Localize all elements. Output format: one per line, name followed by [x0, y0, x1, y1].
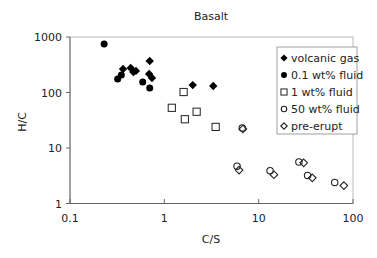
- legend-label: 50 wt% fluid: [291, 103, 360, 116]
- data-point: [340, 182, 348, 190]
- legend-item: 50 wt% fluid: [281, 103, 359, 116]
- y-tick-label: 10: [48, 142, 62, 155]
- legend-marker-icon: [281, 72, 287, 78]
- y-tick-label: 100: [41, 87, 62, 100]
- data-point: [189, 81, 197, 89]
- x-tick-label: 1: [161, 212, 168, 225]
- data-point: [101, 40, 108, 47]
- data-point: [212, 123, 219, 130]
- x-tick-label: 100: [343, 212, 364, 225]
- data-point: [332, 179, 338, 185]
- x-tick-label: 0.1: [61, 212, 79, 225]
- legend-label: 1 wt% fluid: [291, 86, 353, 99]
- data-point: [193, 108, 200, 115]
- data-point: [235, 166, 243, 174]
- legend-label: 0.1 wt% fluid: [291, 69, 363, 82]
- data-point: [180, 88, 187, 95]
- data-point: [114, 76, 121, 83]
- data-point: [270, 171, 278, 179]
- x-axis-label: C/S: [202, 233, 220, 246]
- data-point: [139, 78, 146, 85]
- x-tick-label: 10: [252, 212, 266, 225]
- legend-label: pre-erupt: [291, 120, 343, 133]
- legend-label: volcanic gas: [291, 52, 359, 65]
- legend-item: 1 wt% fluid: [281, 86, 353, 99]
- scatter-chart: Basalt 1101001000 0.1110100 C/S H/C volc…: [0, 0, 377, 258]
- series-pre-erupt: [235, 125, 347, 189]
- legend-item: pre-erupt: [281, 120, 343, 133]
- series-volcanic-gas: [119, 57, 218, 90]
- legend-item: 0.1 wt% fluid: [281, 69, 363, 82]
- y-tick-label: 1: [55, 198, 62, 211]
- y-tick-labels: 1101001000: [34, 31, 70, 211]
- series-0-1-wt-fluid: [101, 40, 154, 91]
- data-point: [168, 104, 175, 111]
- legend-item: volcanic gas: [280, 52, 359, 65]
- data-point: [181, 116, 188, 123]
- data-point: [146, 85, 153, 92]
- data-point: [304, 172, 310, 178]
- x-tick-labels: 0.1110100: [61, 199, 363, 225]
- chart-title: Basalt: [194, 10, 229, 23]
- data-point: [146, 57, 154, 65]
- y-axis-label: H/C: [16, 112, 29, 132]
- y-tick-label: 1000: [34, 31, 62, 44]
- series-1-wt-fluid: [168, 88, 219, 130]
- data-point: [209, 82, 217, 90]
- legend: volcanic gas0.1 wt% fluid1 wt% fluid50 w…: [277, 47, 363, 134]
